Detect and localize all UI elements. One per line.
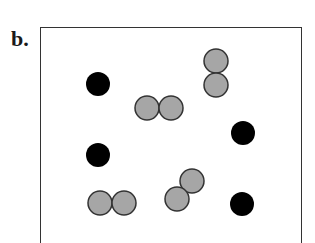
grey-particle [112, 191, 136, 215]
grey-particle [204, 73, 228, 97]
grey-particle [165, 187, 189, 211]
black-particle [86, 143, 110, 167]
grey-particle [159, 96, 183, 120]
grey-particle [204, 49, 228, 73]
black-particle [86, 72, 110, 96]
black-particle [231, 121, 255, 145]
grey-particle [88, 191, 112, 215]
black-particle [230, 192, 254, 216]
grey-particle [135, 96, 159, 120]
